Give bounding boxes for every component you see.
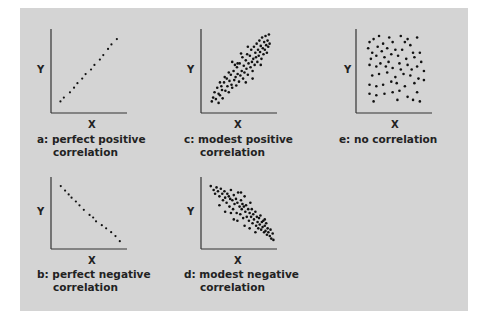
- data-point: [240, 191, 243, 194]
- data-point: [388, 36, 391, 39]
- data-point: [110, 43, 112, 45]
- data-point: [256, 61, 259, 64]
- data-point: [396, 99, 399, 102]
- data-point: [395, 82, 398, 85]
- data-point: [368, 83, 371, 86]
- x-axis-label: X: [234, 255, 242, 266]
- data-point: [267, 231, 270, 234]
- data-point: [379, 62, 382, 65]
- data-point: [420, 61, 423, 64]
- plot-area: [356, 29, 446, 119]
- chart-no-correlation: Y X e: no correlation: [340, 26, 470, 156]
- data-point: [416, 65, 419, 68]
- data-point: [241, 56, 244, 59]
- data-point: [402, 73, 405, 76]
- data-point: [406, 96, 409, 99]
- caption-line1: e: no correlation: [339, 133, 437, 145]
- data-point: [375, 94, 378, 97]
- data-point: [68, 193, 70, 195]
- chart-perfect-positive: Y X a: perfect positive correlation: [36, 26, 166, 156]
- data-point: [224, 89, 227, 92]
- data-point: [259, 51, 262, 54]
- data-point: [391, 91, 394, 94]
- data-point: [235, 212, 238, 215]
- plot-area: [51, 177, 141, 267]
- data-point: [253, 45, 256, 48]
- data-point: [90, 68, 92, 70]
- data-point: [244, 210, 247, 213]
- data-point: [211, 100, 214, 103]
- data-point: [247, 45, 250, 48]
- data-point: [404, 85, 407, 88]
- data-point: [247, 208, 250, 211]
- data-point: [375, 55, 378, 58]
- data-point: [387, 61, 390, 64]
- data-point: [243, 205, 246, 208]
- data-point: [270, 237, 273, 240]
- data-point: [214, 193, 217, 196]
- data-point: [93, 64, 95, 66]
- data-point: [218, 195, 221, 198]
- data-point: [215, 186, 218, 189]
- data-point: [249, 201, 252, 204]
- caption-line1: c: modest positive: [184, 133, 293, 145]
- data-point: [258, 217, 261, 220]
- data-point: [368, 41, 371, 44]
- y-axis-label: Y: [37, 206, 44, 217]
- data-point: [383, 56, 386, 59]
- data-point: [409, 44, 412, 47]
- data-point: [266, 233, 269, 236]
- data-point: [391, 67, 394, 70]
- y-axis-label: Y: [187, 64, 194, 75]
- data-point: [250, 216, 253, 219]
- data-point: [390, 80, 393, 83]
- data-point: [236, 73, 239, 76]
- data-point: [227, 195, 230, 198]
- data-point: [75, 200, 77, 202]
- chart-caption: c: modest positive correlation: [184, 133, 293, 159]
- caption-line1: a: perfect positive: [37, 133, 146, 145]
- data-point: [88, 214, 90, 216]
- data-point: [224, 196, 227, 199]
- data-point: [382, 83, 385, 86]
- data-point: [234, 64, 237, 67]
- data-point: [59, 100, 61, 102]
- data-point: [401, 48, 404, 51]
- data-point: [230, 74, 233, 77]
- data-point: [110, 231, 112, 233]
- data-point: [221, 193, 224, 196]
- data-point: [406, 38, 409, 41]
- data-point: [372, 100, 375, 103]
- data-point: [412, 51, 415, 54]
- data-point: [223, 190, 226, 193]
- data-point: [220, 187, 223, 190]
- caption-line2: correlation: [184, 281, 299, 294]
- data-point: [264, 48, 267, 51]
- data-point: [241, 203, 244, 206]
- data-point: [404, 41, 407, 44]
- data-point: [240, 208, 243, 211]
- chart-modest-positive: Y X c: modest positive correlation: [186, 26, 326, 156]
- data-point: [119, 240, 121, 242]
- data-point: [249, 66, 252, 69]
- data-point: [235, 198, 238, 201]
- data-point: [245, 81, 248, 84]
- data-point: [218, 204, 221, 207]
- data-point: [394, 76, 397, 79]
- data-point: [220, 85, 223, 88]
- data-point: [230, 212, 233, 215]
- data-point: [217, 102, 220, 105]
- data-point: [239, 213, 242, 216]
- data-point: [400, 68, 403, 71]
- plot-area: [201, 29, 291, 119]
- data-point: [78, 204, 80, 206]
- data-point: [212, 96, 215, 99]
- data-point: [228, 205, 231, 208]
- data-point: [255, 42, 258, 45]
- data-point: [266, 227, 269, 230]
- data-point: [248, 219, 251, 222]
- data-point: [233, 218, 236, 221]
- data-point: [229, 198, 232, 201]
- data-point: [371, 74, 374, 77]
- data-point: [251, 77, 254, 80]
